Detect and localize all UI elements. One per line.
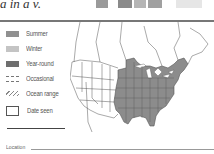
date-seen-label: Date seen <box>27 107 53 114</box>
legend-label: Summer <box>26 30 47 37</box>
location-label: Location <box>6 144 25 150</box>
bird-photo-thumb <box>134 0 146 8</box>
date-entry-line[interactable] <box>7 128 65 129</box>
bird-photo-thumb <box>118 0 132 8</box>
legend-label: Ocean range <box>26 90 59 97</box>
legend-item-winter: Winter <box>6 41 76 56</box>
page-text-fragment: a in a v. <box>0 0 41 12</box>
range-map <box>70 22 214 134</box>
ocean-range-hatch-icon <box>6 91 19 96</box>
legend-item-year-round: Year-round <box>6 56 76 71</box>
bird-photo-thumb <box>176 0 202 8</box>
date-seen-checkbox[interactable] <box>6 106 19 116</box>
occasional-dashed-icon <box>6 76 19 82</box>
range-area <box>114 58 188 126</box>
bird-photo-thumb <box>110 0 116 8</box>
legend-label: Winter <box>26 45 42 52</box>
summer-swatch-icon <box>6 31 19 37</box>
legend-item-occasional: Occasional <box>6 71 76 86</box>
photo-strip <box>96 0 214 8</box>
location-field[interactable]: Location <box>6 143 214 150</box>
location-input-line[interactable] <box>31 143 214 150</box>
legend-item-summer: Summer <box>6 26 76 41</box>
legend-item-ocean-range: Ocean range <box>6 86 76 101</box>
bird-photo-thumb <box>164 0 174 8</box>
legend-label: Year-round <box>26 60 54 67</box>
bird-photo-thumb <box>96 0 108 8</box>
range-legend: Summer Winter Year-round Occasional Ocea… <box>6 26 76 118</box>
winter-swatch-icon <box>6 46 19 52</box>
date-seen-field[interactable]: Date seen <box>6 103 76 118</box>
year-round-swatch-icon <box>6 61 19 67</box>
legend-label: Occasional <box>26 75 54 82</box>
bird-photo-thumb <box>148 0 162 8</box>
